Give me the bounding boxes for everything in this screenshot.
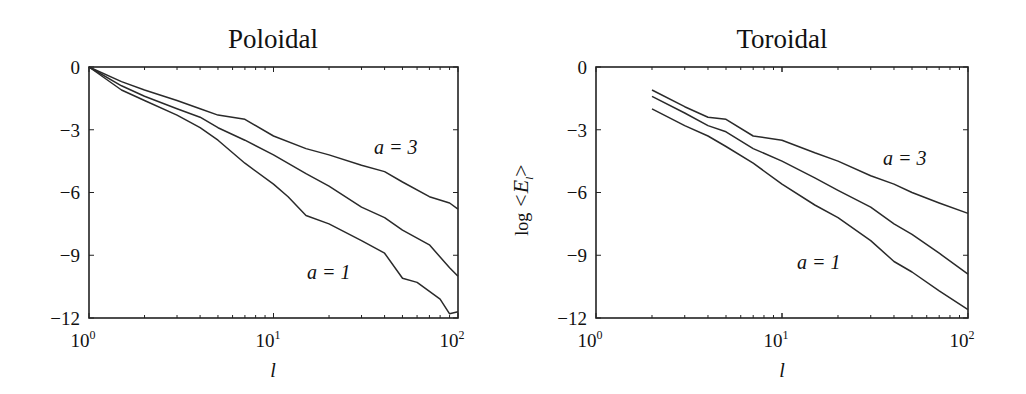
x-tick-label: 102 (950, 328, 975, 351)
y-tick-labels: 0 −3 −6 −9 −12 (50, 57, 80, 329)
toroidal-panel: Toroidal 0 −3 −6 −9 −12 100 101 102 l lo… (508, 24, 975, 381)
annotation-a1: a = 1 (797, 251, 841, 273)
y-tick-label: −6 (567, 182, 587, 203)
y-tick-label: −3 (567, 120, 587, 141)
annotation-a3: a = 3 (883, 147, 927, 169)
tick-marks (89, 67, 458, 318)
data-series-line (89, 67, 458, 314)
x-tick-label: 100 (578, 328, 603, 351)
y-tick-labels: 0 −3 −6 −9 −12 (557, 57, 587, 329)
y-tick-label: −12 (50, 308, 80, 329)
x-tick-label: 101 (764, 328, 789, 351)
x-axis-label: l (270, 359, 276, 381)
y-tick-label: −6 (60, 182, 80, 203)
poloidal-panel: Poloidal 0 −3 −6 −9 −12 100 101 102 l a … (50, 24, 464, 381)
data-series-line (89, 67, 458, 276)
panel-title: Poloidal (228, 24, 318, 54)
y-axis-label: log <El> (508, 164, 535, 235)
x-tick-label: 100 (71, 328, 96, 351)
x-axis-label: l (779, 359, 785, 381)
y-tick-label: −9 (567, 245, 587, 266)
x-tick-label: 102 (440, 328, 465, 351)
plot-frame (89, 67, 458, 318)
annotation-a3: a = 3 (374, 136, 418, 158)
curves (652, 90, 968, 310)
x-tick-labels: 100 101 102 (578, 328, 975, 351)
y-tick-label: −3 (60, 120, 80, 141)
x-tick-labels: 100 101 102 (71, 328, 465, 351)
figure: Poloidal 0 −3 −6 −9 −12 100 101 102 l a … (0, 0, 1026, 394)
y-tick-label: −12 (557, 308, 587, 329)
data-series-line (652, 109, 968, 310)
y-tick-label: 0 (71, 57, 81, 78)
curves (89, 67, 458, 314)
panel-title: Toroidal (736, 24, 827, 54)
y-tick-label: 0 (578, 57, 588, 78)
data-series-line (652, 96, 968, 274)
annotation-a1: a = 1 (307, 261, 351, 283)
y-tick-label: −9 (60, 245, 80, 266)
x-tick-label: 101 (256, 328, 281, 351)
